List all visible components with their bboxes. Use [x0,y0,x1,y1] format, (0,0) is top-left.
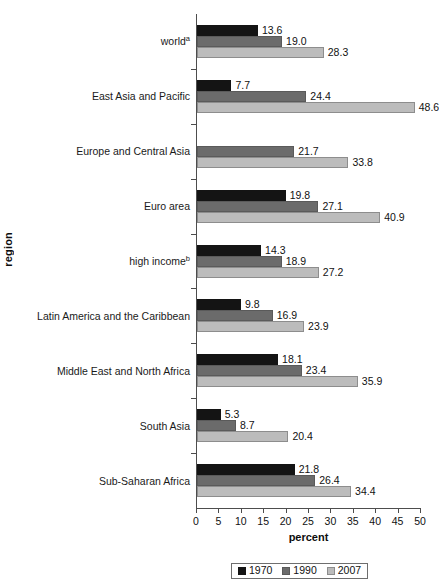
category-footnote-marker: a [186,34,190,43]
plot-area: worlda13.619.028.3East Asia and Pacific7… [196,14,420,508]
legend-item-2007: 2007 [327,565,361,576]
bar-1990-europe-and-central-asia [197,146,294,157]
category-label: Europe and Central Asia [0,145,190,157]
category-axis-tick [191,179,196,180]
legend-swatch-icon [238,567,246,575]
bar-value-label: 33.8 [352,157,372,168]
category-axis-tick [191,398,196,399]
bar-value-label: 28.3 [328,47,348,58]
x-axis-tick-label: 45 [386,515,410,527]
bar-value-label: 24.4 [310,91,330,102]
bar-value-label: 23.9 [308,321,328,332]
category-axis-tick [191,288,196,289]
legend-swatch-icon [282,567,290,575]
bar-value-label: 21.8 [299,464,319,475]
category-axis-tick [191,124,196,125]
category-label: Euro area [0,200,190,212]
bar-1990-east-asia-and-pacific [197,91,306,102]
category-footnote-marker: b [186,254,190,263]
bar-2007-sub-saharan-africa [197,486,351,497]
category-axis-tick [191,234,196,235]
bar-value-label: 5.3 [225,409,240,420]
bar-value-label: 13.6 [262,25,282,36]
bar-value-label: 19.0 [286,36,306,47]
category-label: high incomeb [0,255,190,267]
chart-legend: 197019902007 [231,563,368,579]
bar-1970-east-asia-and-pacific [197,80,231,91]
bar-value-label: 8.7 [240,420,255,431]
category-label: Middle East and North Africa [0,365,190,377]
category-label: Sub-Saharan Africa [0,475,190,487]
category-label: worlda [0,35,190,47]
bar-2007-high-income [197,267,319,278]
bar-value-label: 14.3 [265,245,285,256]
x-axis-tick-mark [218,508,219,513]
legend-label: 2007 [338,565,361,576]
bar-1970-sub-saharan-africa [197,464,295,475]
category-label: South Asia [0,420,190,432]
bar-value-label: 9.8 [245,299,260,310]
bar-2007-world [197,47,324,58]
bar-value-label: 21.7 [298,146,318,157]
bar-1970-euro-area [197,190,286,201]
x-axis-tick-label: 15 [251,515,275,527]
bar-1990-south-asia [197,420,236,431]
category-axis-tick [191,343,196,344]
x-axis-tick-label: 50 [408,515,432,527]
bar-value-label: 19.8 [290,190,310,201]
category-label: Latin America and the Caribbean [0,310,190,322]
x-axis-tick-mark [375,508,376,513]
bar-2007-euro-area [197,212,380,223]
x-axis-tick-mark [308,508,309,513]
x-axis-tick-mark [263,508,264,513]
x-axis-tick-label: 5 [206,515,230,527]
bar-value-label: 23.4 [306,365,326,376]
category-label: East Asia and Pacific [0,90,190,102]
x-axis-tick-label: 40 [363,515,387,527]
bar-value-label: 27.2 [323,267,343,278]
x-axis-tick-label: 20 [274,515,298,527]
x-axis-tick-mark [241,508,242,513]
bar-value-label: 18.9 [286,256,306,267]
bar-2007-middle-east-and-north-africa [197,376,358,387]
bar-value-label: 16.9 [277,310,297,321]
x-axis-tick-mark [420,508,421,513]
x-axis-tick-label: 0 [184,515,208,527]
legend-item-1970: 1970 [238,565,272,576]
bar-value-label: 27.1 [322,201,342,212]
bar-1970-middle-east-and-north-africa [197,354,278,365]
category-axis-tick [191,453,196,454]
x-axis-tick-mark [196,508,197,513]
bar-value-label: 34.4 [355,486,375,497]
x-axis-tick-mark [330,508,331,513]
bar-value-label: 7.7 [235,80,250,91]
bar-value-label: 26.4 [319,475,339,486]
bar-1990-middle-east-and-north-africa [197,365,302,376]
bar-1970-south-asia [197,409,221,420]
bar-1990-high-income [197,256,282,267]
bar-value-label: 20.4 [292,431,312,442]
bar-2007-south-asia [197,431,288,442]
legend-swatch-icon [327,567,335,575]
category-axis-tick [191,69,196,70]
bar-1990-euro-area [197,201,318,212]
x-axis-tick-mark [353,508,354,513]
legend-item-1990: 1990 [282,565,316,576]
x-axis-tick-mark [286,508,287,513]
bar-1970-high-income [197,245,261,256]
x-axis-tick-label: 30 [318,515,342,527]
bar-2007-east-asia-and-pacific [197,102,415,113]
legend-label: 1970 [249,565,272,576]
bar-value-label: 40.9 [384,212,404,223]
bar-1990-world [197,36,282,47]
x-axis-title: percent [196,531,421,543]
bar-1990-latin-america-and-the-caribbean [197,310,273,321]
x-axis-tick-label: 35 [341,515,365,527]
x-axis-tick-mark [398,508,399,513]
x-axis-tick-label: 10 [229,515,253,527]
bar-1970-latin-america-and-the-caribbean [197,299,241,310]
bar-1970-world [197,25,258,36]
x-axis-tick-label: 25 [296,515,320,527]
bar-2007-latin-america-and-the-caribbean [197,321,304,332]
